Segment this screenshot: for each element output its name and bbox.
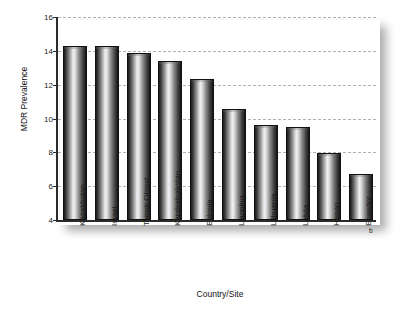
y-tick-label-16: 16 bbox=[44, 13, 53, 22]
bar-top-cap bbox=[191, 80, 213, 82]
y-tick-mark-4 bbox=[53, 220, 57, 221]
x-tick-label-henan: Henan bbox=[332, 202, 341, 226]
bar-israel bbox=[95, 46, 119, 220]
x-tick-label-ecuador: Ecuador bbox=[364, 196, 373, 226]
y-tick-mark-14 bbox=[53, 51, 57, 52]
bar-body bbox=[95, 46, 119, 220]
x-axis-line bbox=[56, 220, 376, 222]
y-tick-mark-6 bbox=[53, 186, 57, 187]
footnote-marker-b: b bbox=[369, 227, 373, 234]
y-tick-label-14: 14 bbox=[44, 46, 53, 55]
y-tick-mark-8 bbox=[53, 152, 57, 153]
bar-top-cap bbox=[128, 54, 150, 56]
x-tick-label-kazakhstan: Kazakhstan bbox=[78, 184, 87, 226]
bar-top-cap bbox=[287, 128, 309, 130]
x-axis-title: Country/Site bbox=[100, 289, 340, 299]
y-tick-mark-12 bbox=[53, 85, 57, 86]
bar-series bbox=[58, 17, 376, 220]
y-tick-label-12: 12 bbox=[44, 80, 53, 89]
x-tick-label-tomsk-oblast: Tomsk Oblast bbox=[142, 178, 151, 226]
bar-top-cap bbox=[64, 47, 86, 49]
y-tick-label-10: 10 bbox=[44, 114, 53, 123]
y-tick-mark-10 bbox=[53, 119, 57, 120]
bar-top-cap bbox=[255, 126, 277, 128]
y-tick-mark-16 bbox=[53, 17, 57, 18]
chart-figure: Figure MDR Prevalence 46810121416 Kazakh… bbox=[0, 0, 420, 311]
x-tick-label-israel: Israel bbox=[110, 206, 119, 226]
x-tick-label-karakalpakstan: Karakalpakstan bbox=[173, 171, 182, 226]
bar-top-cap bbox=[223, 110, 245, 112]
x-tick-label-lithuania: Lithuania bbox=[269, 194, 278, 226]
bar-top-cap bbox=[350, 175, 372, 177]
bar-top-cap bbox=[96, 47, 118, 49]
plot-area: 46810121416 bbox=[58, 17, 376, 220]
x-tick-label-liaoning: Liaoning bbox=[237, 196, 246, 226]
x-tick-label-latvia: Latvia bbox=[301, 205, 310, 226]
y-axis-title: MDR Prevalence bbox=[19, 59, 29, 139]
bar-top-cap bbox=[318, 154, 340, 156]
x-tick-label-estonia: Estonia bbox=[205, 199, 214, 226]
bar-top-cap bbox=[159, 62, 181, 64]
